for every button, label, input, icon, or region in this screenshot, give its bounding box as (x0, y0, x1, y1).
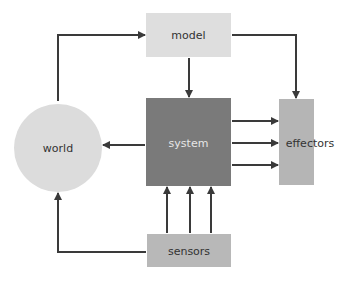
arrow-model-to-effectors (232, 35, 296, 98)
world-label: world (43, 142, 73, 155)
arrow-world-to-model (58, 35, 145, 101)
sensors-label: sensors (168, 245, 210, 258)
system-node: system (146, 98, 231, 186)
sensors-node: sensors (147, 234, 231, 267)
system-label: system (169, 137, 209, 150)
diagram-canvas: model system effectors world sensors (0, 0, 346, 282)
model-label: model (171, 29, 205, 42)
effectors-label: effectors (286, 137, 335, 150)
model-node: model (146, 13, 231, 57)
effectors-node: effectors (279, 99, 334, 185)
world-node: world (14, 104, 102, 192)
arrow-sensors-to-world (58, 193, 146, 252)
